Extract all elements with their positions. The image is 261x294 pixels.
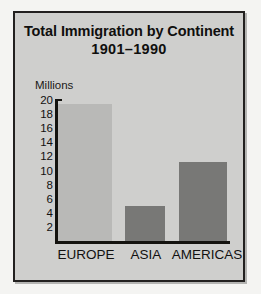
chart-frame: Total Immigration by Continent 1901–1990… — [13, 11, 245, 282]
x-axis-label-americas: AMERICAS — [169, 246, 245, 263]
x-axis-line — [55, 241, 230, 244]
x-axis-labels: EUROPEASIAAMERICAS — [15, 246, 247, 266]
bars-layer — [15, 13, 247, 241]
bar-europe — [58, 104, 112, 241]
bar-americas — [179, 162, 227, 241]
page-canvas: Total Immigration by Continent 1901–1990… — [0, 0, 261, 294]
x-axis-label-asia: ASIA — [120, 246, 172, 263]
plot-area: 2018161412108642 EUROPEASIAAMERICAS — [15, 13, 247, 284]
bar-asia — [125, 206, 165, 241]
x-axis-label-europe: EUROPE — [51, 246, 121, 263]
